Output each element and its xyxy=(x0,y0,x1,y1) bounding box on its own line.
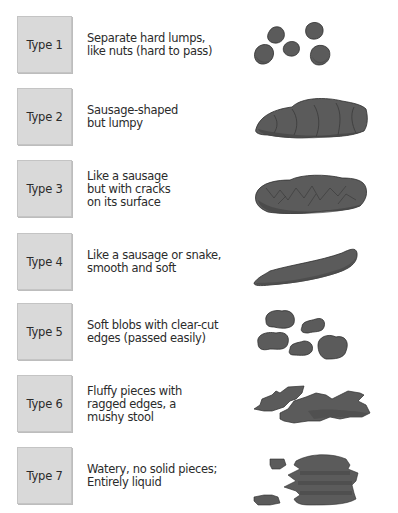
type-2-label: Type 2 xyxy=(26,110,62,124)
type-row-4: Type 4 Like a sausage or snake, smooth a… xyxy=(0,233,398,293)
separate-hard-lumps-icon xyxy=(250,20,398,80)
type-4-box: Type 4 xyxy=(17,233,72,290)
type-row-7: Type 7 Watery, no solid pieces; Entirely… xyxy=(0,447,398,507)
type-5-description: Soft blobs with clear-cut edges (passed … xyxy=(87,319,247,345)
type-2-description: Sausage-shaped but lumpy xyxy=(87,104,247,130)
type-3-box: Type 3 xyxy=(17,160,72,217)
type-row-2: Type 2 Sausage-shaped but lumpy xyxy=(0,88,398,148)
type-1-box: Type 1 xyxy=(17,16,72,73)
smooth-snake-icon xyxy=(250,239,398,289)
type-1-label: Type 1 xyxy=(26,38,62,52)
type-row-6: Type 6 Fluffy pieces with ragged edges, … xyxy=(0,375,398,435)
type-5-label: Type 5 xyxy=(26,325,62,339)
type-5-box: Type 5 xyxy=(17,303,72,360)
type-6-box: Type 6 xyxy=(17,375,72,432)
type-row-3: Type 3 Like a sausage but with cracks on… xyxy=(0,160,398,220)
type-4-description: Like a sausage or snake, smooth and soft xyxy=(87,249,247,275)
type-7-description: Watery, no solid pieces; Entirely liquid xyxy=(87,463,247,489)
soft-blobs-icon xyxy=(250,305,398,361)
type-4-label: Type 4 xyxy=(26,255,62,269)
type-7-box: Type 7 xyxy=(17,447,72,504)
cracked-sausage-icon xyxy=(250,170,398,220)
fluffy-pieces-icon xyxy=(250,381,398,431)
type-3-description: Like a sausage but with cracks on its su… xyxy=(87,170,247,209)
type-1-description: Separate hard lumps, like nuts (hard to … xyxy=(87,32,247,58)
type-6-description: Fluffy pieces with ragged edges, a mushy… xyxy=(87,385,247,424)
type-6-label: Type 6 xyxy=(26,397,62,411)
watery-liquid-icon xyxy=(250,451,398,513)
lumpy-sausage-icon xyxy=(250,93,398,143)
type-7-label: Type 7 xyxy=(26,469,62,483)
type-row-1: Type 1 Separate hard lumps, like nuts (h… xyxy=(0,16,398,76)
type-2-box: Type 2 xyxy=(17,88,72,145)
type-row-5: Type 5 Soft blobs with clear-cut edges (… xyxy=(0,303,398,363)
type-3-label: Type 3 xyxy=(26,182,62,196)
